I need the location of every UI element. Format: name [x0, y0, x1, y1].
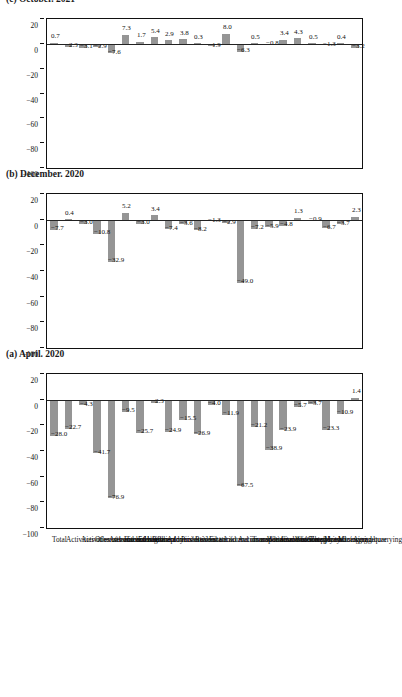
zero-line: [47, 400, 362, 401]
axis-tick-label: 20: [31, 196, 39, 205]
bar-value-label: −2.3: [151, 397, 164, 405]
bar-value-label: 0.5: [251, 33, 260, 41]
axis-tick: [40, 193, 44, 194]
panel-b-bars: 2.3−3.7−6.7−0.91.3−4.8−5.9−7.2−49.0−2.9−…: [47, 194, 362, 348]
bar-value-label: −4.8: [280, 220, 293, 228]
bar-value-label: 0.4: [337, 33, 346, 41]
bar-value-label: 1.7: [137, 31, 146, 39]
bar: [151, 37, 159, 44]
bar-value-label: −23.9: [280, 425, 296, 433]
bar-value-label: −22.7: [65, 423, 81, 431]
panel-october-2021: (c) October. 2021 −3.20.4−1.30.54.33.4−0…: [0, 0, 375, 175]
category-label: Total: [52, 535, 67, 544]
axis-tick: [40, 527, 44, 528]
panel-c-title: (c) October. 2021: [0, 4, 375, 18]
bar-value-label: −7.7: [51, 224, 64, 232]
bar: [222, 34, 230, 44]
axis-tick: [40, 476, 44, 477]
bar-value-label: 5.4: [151, 27, 160, 35]
axis-tick: [40, 142, 44, 143]
bar-value-label: −25.7: [137, 427, 153, 435]
bar-value-label: −4.3: [80, 400, 93, 408]
axis-tick-label: −60: [26, 479, 38, 488]
bar-value-label: −28.0: [51, 430, 67, 438]
axis-tick: [40, 296, 44, 297]
axis-tick: [40, 219, 44, 220]
axis-tick-label: −80: [26, 324, 38, 333]
axis-tick-label: 0: [34, 402, 38, 411]
axis-tick-label: 0: [34, 222, 38, 231]
zero-line: [47, 44, 362, 45]
panel-b-yaxis: 200−20−40−60−80−100: [0, 175, 44, 355]
axis-tick-label: −40: [26, 273, 38, 282]
bar-value-label: 3.4: [151, 205, 160, 213]
zero-line: [47, 220, 362, 221]
axis-tick-label: 20: [31, 376, 39, 385]
bar-value-label: −7.6: [108, 48, 121, 56]
bar: [122, 213, 130, 220]
panel-a-title: (a) April. 2020: [0, 359, 375, 373]
axis-tick: [40, 373, 44, 374]
bar-value-label: −5.7: [294, 401, 307, 409]
axis-tick: [40, 68, 44, 69]
bar-value-label: 3.8: [180, 29, 189, 37]
bar-value-label: −11.9: [223, 409, 239, 417]
panel-b-title: (b) December. 2020: [0, 179, 375, 193]
bar-value-label: 8.0: [223, 23, 232, 31]
axis-tick-label: −60: [26, 120, 38, 129]
bar-value-label: 2.3: [352, 206, 361, 214]
panel-c-plot: −3.20.4−1.30.54.33.4−0.80.5−6.38.0−1.90.…: [46, 18, 363, 169]
bar-value-label: −10.9: [337, 408, 353, 416]
axis-tick: [40, 450, 44, 451]
bar-value-label: −2.3: [65, 41, 78, 49]
panel-april-2020: (a) April. 2020 1.4−10.9−23.3−3.7−5.7−23…: [0, 355, 375, 535]
category-axis-labels: AgricultureMining and quarryingManufactu…: [0, 535, 375, 697]
bar-value-label: −8.2: [194, 225, 207, 233]
axis-tick-label: 0: [34, 46, 38, 55]
axis-tick: [40, 399, 44, 400]
bar-value-label: −24.9: [165, 426, 181, 434]
axis-tick-label: −80: [26, 504, 38, 513]
axis-tick: [40, 93, 44, 94]
bar-value-label: −67.5: [237, 481, 253, 489]
axis-tick-label: −80: [26, 145, 38, 154]
axis-tick-label: −40: [26, 96, 38, 105]
bar-value-label: −49.0: [237, 277, 253, 285]
axis-tick: [40, 424, 44, 425]
axis-tick: [40, 167, 44, 168]
bar: [93, 400, 101, 454]
category-label: Activities of extraterritorial org.: [66, 535, 159, 544]
axis-tick-label: −40: [26, 453, 38, 462]
bar-value-label: 5.2: [123, 202, 132, 210]
panel-a-bars: 1.4−10.9−23.3−3.7−5.7−23.9−38.9−21.2−67.…: [47, 374, 362, 528]
axis-tick: [40, 321, 44, 322]
axis-tick: [40, 117, 44, 118]
bar-value-label: −21.2: [251, 421, 267, 429]
bar-value-label: −6.3: [237, 46, 250, 54]
axis-tick-label: −20: [26, 427, 38, 436]
panel-c-bars: −3.20.4−1.30.54.33.4−0.80.5−6.38.0−1.90.…: [47, 19, 362, 168]
panel-c-yaxis: 200−20−40−60−80−100: [0, 0, 44, 175]
bar-value-label: −9.5: [123, 406, 136, 414]
bar-value-label: −38.9: [266, 444, 282, 452]
axis-tick: [40, 347, 44, 348]
bar-value-label: 3.4: [280, 29, 289, 37]
bar-value-label: −7.4: [165, 224, 178, 232]
bar-value-label: −76.9: [108, 493, 124, 501]
bar: [237, 220, 245, 283]
bar-value-label: −6.7: [323, 223, 336, 231]
bar-value-label: 0.5: [309, 33, 318, 41]
axis-tick: [40, 244, 44, 245]
panel-a-plot: 1.4−10.9−23.3−3.7−5.7−23.9−38.9−21.2−67.…: [46, 373, 363, 529]
bar-value-label: 0.4: [65, 209, 74, 217]
bar-value-label: 0.7: [51, 32, 60, 40]
bar-value-label: −41.7: [94, 448, 110, 456]
panel-december-2020: (b) December. 2020 2.3−3.7−6.7−0.91.3−4.…: [0, 175, 375, 355]
axis-tick: [40, 18, 44, 19]
bar-value-label: 0.3: [194, 33, 203, 41]
axis-tick-label: −60: [26, 299, 38, 308]
bar-value-label: −26.9: [194, 429, 210, 437]
bar-value-label: −7.2: [251, 223, 264, 231]
bar-value-label: 4.3: [294, 28, 303, 36]
